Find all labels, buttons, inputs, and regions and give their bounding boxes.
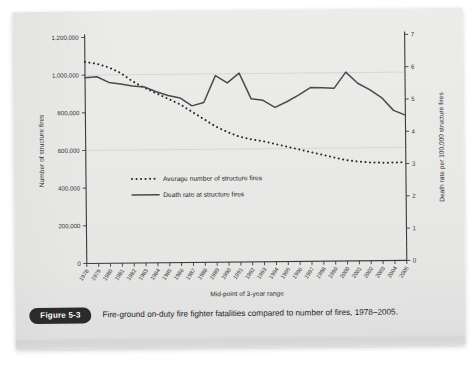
x-axis-tick-label: 1993: [256, 266, 268, 280]
y2-axis-tick-label: 7: [411, 31, 415, 38]
x-axis-tick-label: 1987: [185, 267, 197, 281]
legend-item-label: Death rate at structure fires: [163, 190, 245, 198]
x-axis-tick-label: 1988: [196, 267, 208, 281]
legend-item-label: Average number of structure fires: [163, 174, 263, 183]
x-axis-tick-label: 1986: [173, 267, 185, 281]
y2-axis-tick-label: 2: [412, 192, 416, 199]
y2-axis-tick-label: 6: [411, 63, 415, 70]
x-axis-tick-label: 1991: [232, 267, 244, 281]
x-axis-tick-label: 1984: [149, 267, 161, 281]
y2-axis-tick-label: 1: [412, 224, 416, 231]
x-axis-tick-label: 2003: [374, 265, 386, 279]
y2-axis-tick-label: 4: [412, 127, 416, 134]
y-axis-tick-label: 800,000: [57, 109, 80, 116]
x-axis-tick-label: 1999: [327, 266, 339, 280]
y-axis-tick-label: 1,200,000: [51, 34, 79, 41]
y2-axis-tick-label: 0: [413, 256, 417, 263]
x-axis-tick-label: 1995: [279, 266, 291, 280]
y-axis-tick-label: 1,000,000: [52, 71, 80, 78]
x-axis-tick-label: 1979: [90, 268, 102, 282]
line-chart: 0200,000400,000600,000800,0001,000,0001,…: [12, 8, 465, 302]
axis-tick-labels: 0200,000400,000600,000800,0001,000,0001,…: [51, 31, 416, 283]
y2-axis-tick-label: 3: [412, 160, 416, 167]
x-axis-tick-label: 1983: [137, 268, 149, 282]
screenshot-root: 0200,000400,000600,000800,0001,000,0001,…: [0, 0, 476, 367]
x-axis-tick-label: 1997: [303, 266, 315, 280]
series-line-death-rate: [85, 72, 405, 119]
page-content: 0200,000400,000600,000800,0001,000,0001,…: [12, 8, 465, 349]
axis-ticks: [81, 34, 410, 267]
y-axis-tick-label: 600,000: [58, 147, 81, 154]
x-axis-tick-label: 1981: [113, 268, 125, 282]
x-axis-tick-label: 2004: [386, 265, 398, 279]
x-axis-tick-label: 1980: [102, 268, 114, 282]
x-axis-tick-label: 1996: [291, 266, 303, 280]
y-axis-tick-label: 400,000: [58, 184, 81, 191]
x-axis-tick-label: 1985: [161, 267, 173, 281]
y-axis-tick-label: 0: [77, 260, 81, 267]
figure-caption-row: Figure 5-3 Fire-ground on-duty fire figh…: [29, 304, 453, 324]
x-axis-tick-label: 2005: [398, 265, 410, 279]
x-axis-tick-label: 1978: [78, 268, 90, 282]
y-axis-tick-label: 200,000: [58, 222, 81, 229]
chart-figure: 0200,000400,000600,000800,0001,000,0001,…: [12, 8, 465, 302]
x-axis-tick-label: 1990: [220, 267, 232, 281]
chart-legend: Average number of structure firesDeath r…: [132, 174, 263, 198]
y2-axis-tick-label: 5: [411, 95, 415, 102]
x-axis-tick-label: 2001: [350, 265, 362, 279]
x-axis-tick-label: 2002: [362, 265, 374, 279]
y2-axis-title: Death rate per 100,000 structure fires: [437, 92, 446, 202]
axes: [85, 31, 407, 263]
x-axis-tick-label: 2000: [339, 266, 351, 280]
x-axis-title: Mid-point of 3-year range: [210, 290, 284, 299]
y-axis-title: Number of structure fires: [37, 114, 45, 187]
x-axis-tick-label: 1994: [268, 266, 280, 280]
x-axis-tick-label: 1989: [208, 267, 220, 281]
figure-number-badge: Figure 5-3: [29, 307, 91, 323]
x-axis-tick-label: 1992: [244, 267, 256, 281]
x-axis-tick-label: 1982: [125, 268, 137, 282]
figure-caption-text: Fire-ground on-duty fire fighter fatalit…: [102, 308, 397, 320]
x-axis-tick-label: 1998: [315, 266, 327, 280]
